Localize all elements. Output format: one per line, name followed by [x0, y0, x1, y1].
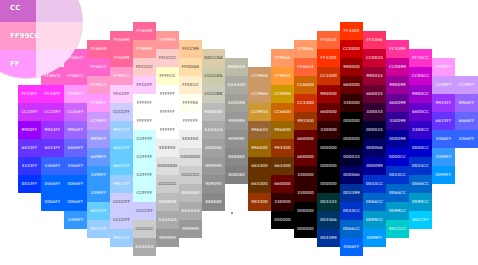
color-swatch[interactable]: 9900FF — [18, 121, 41, 139]
color-swatch[interactable]: CC3300 — [294, 94, 317, 112]
color-swatch[interactable]: 660033 — [363, 85, 386, 103]
color-swatch[interactable]: A0A098 — [225, 94, 248, 112]
color-swatch[interactable]: 000000 — [340, 130, 363, 148]
color-swatch[interactable]: CCCCFF — [110, 211, 133, 229]
color-swatch[interactable]: 0099FF — [432, 166, 455, 184]
color-swatch[interactable]: 0066FF — [41, 193, 64, 211]
color-swatch[interactable]: CCCCCC — [156, 175, 179, 193]
color-swatch[interactable]: 0066CC — [386, 184, 409, 202]
color-swatch[interactable]: 0066CC — [409, 175, 432, 193]
color-swatch[interactable]: DDCCAA — [202, 49, 225, 67]
color-swatch[interactable]: 9966FF — [64, 121, 87, 139]
color-swatch[interactable]: 00CCFF — [409, 211, 432, 229]
color-swatch[interactable]: 660000 — [317, 103, 340, 121]
color-swatch[interactable]: CC99FF — [455, 76, 478, 94]
color-swatch[interactable]: 3366FF — [455, 130, 478, 148]
color-swatch[interactable]: CC9966 — [248, 85, 271, 103]
color-swatch[interactable]: FF99FF — [432, 58, 455, 76]
color-swatch[interactable]: DDDDDD — [179, 148, 202, 166]
color-swatch[interactable]: 330000 — [294, 166, 317, 184]
color-swatch[interactable]: CCCCCC — [133, 220, 156, 238]
color-swatch[interactable]: FFCC99 — [179, 40, 202, 58]
color-swatch[interactable]: 000066 — [340, 166, 363, 184]
color-swatch[interactable]: 003333 — [317, 193, 340, 211]
color-swatch[interactable]: 0099CC — [409, 193, 432, 211]
color-swatch[interactable]: FF33CC — [409, 49, 432, 67]
color-swatch[interactable]: 999999 — [202, 157, 225, 175]
color-swatch[interactable]: 000000 — [317, 175, 340, 193]
color-swatch[interactable]: FF6699 — [133, 22, 156, 40]
color-swatch[interactable]: CCCCFF — [110, 193, 133, 211]
color-swatch[interactable]: 990033 — [363, 67, 386, 85]
color-swatch[interactable]: CC6600 — [271, 103, 294, 121]
color-swatch[interactable]: 330099 — [386, 112, 409, 130]
color-swatch[interactable]: FFFFFF — [156, 85, 179, 103]
color-swatch[interactable]: 0066FF — [64, 193, 87, 211]
color-swatch[interactable]: CC33FF — [18, 103, 41, 121]
color-swatch[interactable]: 993300 — [294, 112, 317, 130]
color-swatch[interactable]: FF6633 — [294, 58, 317, 76]
color-swatch[interactable]: CCCCFF — [110, 103, 133, 121]
color-swatch[interactable]: 999999 — [179, 220, 202, 238]
color-swatch[interactable]: 66CCFF — [87, 202, 110, 220]
color-swatch[interactable]: FF33FF — [41, 85, 64, 103]
color-swatch[interactable]: 3366FF — [432, 130, 455, 148]
color-swatch[interactable]: 000000 — [317, 157, 340, 175]
color-swatch[interactable]: 6666FF — [455, 112, 478, 130]
color-swatch[interactable]: 003399 — [340, 184, 363, 202]
color-swatch[interactable]: FF3399 — [386, 40, 409, 58]
color-swatch[interactable]: 996600 — [271, 121, 294, 139]
color-swatch[interactable]: 99CCFF — [87, 220, 110, 238]
color-swatch[interactable]: 9933FF — [432, 94, 455, 112]
color-swatch[interactable]: CCCCCC — [179, 166, 202, 184]
color-swatch[interactable]: CCFFFF — [133, 184, 156, 202]
color-swatch[interactable]: 000000 — [340, 112, 363, 130]
color-swatch[interactable]: 663300 — [248, 175, 271, 193]
color-swatch[interactable]: 660000 — [294, 130, 317, 148]
color-swatch[interactable]: 330000 — [271, 193, 294, 211]
color-swatch[interactable]: FF9999 — [133, 40, 156, 58]
color-swatch[interactable]: 3399FF — [87, 184, 110, 202]
color-swatch[interactable]: 99CCFF — [110, 229, 133, 247]
color-swatch[interactable]: 000099 — [386, 130, 409, 148]
color-swatch[interactable]: 9999FF — [87, 130, 110, 148]
color-swatch[interactable]: 0033CC — [409, 157, 432, 175]
color-swatch[interactable]: FFCCCC — [133, 58, 156, 76]
color-swatch[interactable]: FFFFFF — [179, 112, 202, 130]
color-swatch[interactable]: FF99FF — [64, 85, 87, 103]
color-swatch[interactable]: FFDDAA — [179, 58, 202, 76]
color-swatch[interactable]: FFEECC — [179, 76, 202, 94]
color-swatch[interactable]: CC33FF — [41, 103, 64, 121]
color-swatch[interactable]: 663300 — [248, 157, 271, 175]
color-swatch[interactable]: 3399FF — [87, 166, 110, 184]
color-swatch[interactable]: CC9933 — [248, 103, 271, 121]
color-swatch[interactable]: FFFFFF — [133, 112, 156, 130]
color-swatch[interactable]: CC0033 — [363, 49, 386, 67]
color-swatch[interactable]: 3366FF — [64, 157, 87, 175]
color-swatch[interactable]: FF33FF — [18, 85, 41, 103]
color-swatch[interactable]: 888888 — [202, 193, 225, 211]
color-swatch[interactable]: CCCCFF — [133, 202, 156, 220]
color-swatch[interactable]: 0066CC — [363, 193, 386, 211]
color-swatch[interactable]: 000000 — [294, 202, 317, 220]
color-swatch[interactable]: 6666FF — [64, 139, 87, 157]
color-swatch[interactable]: FF99CC — [110, 67, 133, 85]
color-swatch[interactable]: 6633FF — [18, 139, 41, 157]
magnifier-lens[interactable]: FFFF99CCCCFF66CC — [0, 0, 82, 78]
color-swatch[interactable]: 0066CC — [340, 220, 363, 238]
color-swatch[interactable]: FF6633 — [317, 31, 340, 49]
color-swatch[interactable]: 330000 — [317, 121, 340, 139]
color-swatch[interactable]: CC0000 — [340, 40, 363, 58]
color-swatch[interactable]: 808080 — [225, 166, 248, 184]
color-swatch[interactable]: 993300 — [271, 139, 294, 157]
color-swatch[interactable]: 996600 — [248, 139, 271, 157]
color-swatch[interactable]: 330000 — [340, 94, 363, 112]
color-swatch[interactable]: FF66CC — [87, 58, 110, 76]
color-swatch[interactable]: 993300 — [248, 193, 271, 211]
color-swatch[interactable]: CCCCAA — [202, 67, 225, 85]
color-swatch[interactable]: 909090 — [225, 130, 248, 148]
color-swatch[interactable]: FF9933 — [271, 67, 294, 85]
color-swatch[interactable]: AAAAAA — [133, 238, 156, 256]
color-swatch[interactable]: FF3300 — [340, 22, 363, 40]
color-swatch[interactable]: CC99FF — [87, 112, 110, 130]
